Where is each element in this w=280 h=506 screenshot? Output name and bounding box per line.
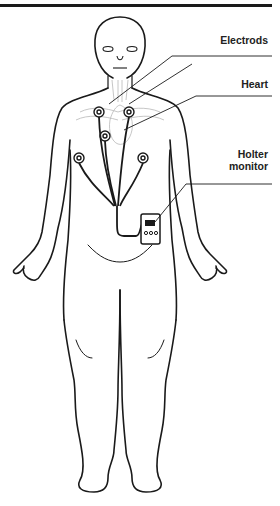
cable-to-monitor	[117, 206, 142, 236]
label-electrods: Electrods	[220, 34, 268, 46]
left-leg-outer	[64, 290, 120, 492]
head	[95, 17, 145, 78]
right-leg-outer	[120, 290, 176, 492]
label-holter-line1: Holter	[208, 148, 268, 160]
heart-pointer	[124, 96, 272, 130]
face	[103, 47, 137, 69]
left-arm-inner	[23, 140, 70, 280]
label-holter-monitor: Holter monitor	[208, 148, 268, 172]
label-heart: Heart	[241, 78, 268, 90]
electrode-2	[124, 107, 134, 117]
groin	[88, 245, 152, 262]
left-eye	[103, 47, 113, 52]
nose	[117, 56, 123, 60]
electrode-5	[138, 153, 148, 163]
electrode-1	[94, 107, 104, 117]
electrode-4	[74, 153, 84, 163]
holter-pointer	[155, 184, 272, 222]
holter-device	[141, 214, 160, 244]
label-holter-line2: monitor	[208, 160, 268, 172]
body-figure	[0, 0, 280, 506]
right-eye	[127, 47, 137, 52]
